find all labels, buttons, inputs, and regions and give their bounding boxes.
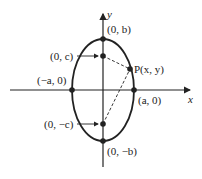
focus-bottom-dot: [100, 121, 106, 127]
right-vertex-dot: [131, 87, 137, 93]
top-vertex-dot: [100, 36, 106, 42]
focal-line-top: [103, 56, 130, 69]
focus-top-dot: [100, 53, 106, 59]
point-p-label: P(x, y): [134, 63, 164, 76]
focus-bottom-label: (0, −c): [44, 118, 74, 131]
ellipse-diagram: y x (0, b) (0, −b) (−a, 0) (a, 0) (0, c)…: [0, 0, 202, 179]
right-vertex-label: (a, 0): [138, 94, 162, 107]
point-p-dot: [127, 66, 133, 72]
top-vertex-label: (0, b): [107, 23, 131, 36]
left-vertex-dot: [69, 87, 75, 93]
left-vertex-label: (−a, 0): [37, 74, 67, 87]
focus-top-label: (0, c): [50, 50, 74, 63]
bottom-vertex-label: (0, −b): [107, 145, 137, 158]
bottom-vertex-dot: [100, 138, 106, 144]
focal-line-bottom: [103, 69, 130, 124]
x-axis-label: x: [187, 93, 193, 105]
y-axis-label: y: [106, 8, 112, 20]
